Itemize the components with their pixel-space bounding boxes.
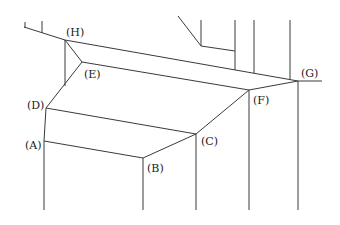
- edge-f-g: [249, 81, 298, 90]
- label-e: (E): [84, 68, 101, 81]
- label-h: (H): [66, 26, 84, 39]
- bg-diagonal: [178, 16, 201, 46]
- label-g: (G): [301, 67, 318, 80]
- edge-h-e: [65, 40, 82, 62]
- label-b: (B): [147, 162, 164, 175]
- label-f: (F): [253, 94, 269, 107]
- edge-a-b: [44, 141, 143, 158]
- edge-d-a: [44, 108, 46, 141]
- label-a: (A): [25, 139, 42, 152]
- edge-f-c: [196, 90, 249, 134]
- bg-horizontal: [201, 46, 235, 51]
- edge-e-d: [46, 62, 82, 108]
- edge-left-to-h: [24, 27, 65, 40]
- label-d: (D): [27, 99, 44, 112]
- edge-d-c: [46, 108, 196, 134]
- edge-e-f: [82, 62, 249, 90]
- ledge-diagram: (H) (E) (D) (A) (B) (C) (F) (G): [0, 0, 340, 225]
- label-c: (C): [201, 135, 218, 148]
- edge-c-b: [143, 134, 196, 158]
